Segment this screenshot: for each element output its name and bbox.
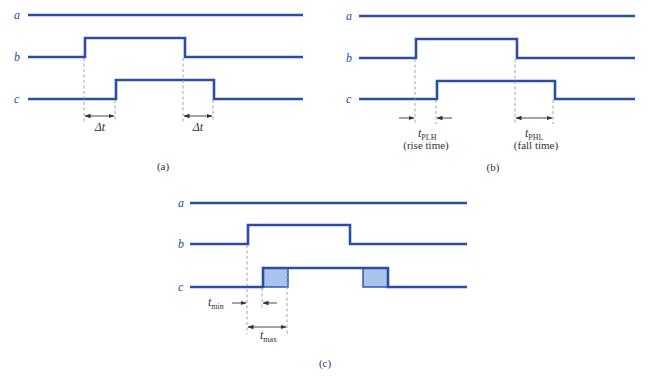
caption-c: (c)	[319, 357, 332, 370]
panel-c: a b c tmin tmax (c)	[178, 196, 467, 370]
delta-t-label-right: Δt	[192, 120, 204, 134]
signal-c-waveform	[28, 80, 303, 99]
signal-label-a: a	[346, 9, 352, 23]
uncertainty-region-fall	[363, 268, 388, 287]
caption-b: (b)	[487, 161, 500, 174]
delta-t-label-left: Δt	[94, 120, 106, 134]
t-max-label: tmax	[260, 328, 277, 344]
signal-label-a: a	[178, 196, 184, 210]
signal-label-b: b	[178, 237, 184, 251]
signal-label-c: c	[178, 280, 184, 294]
timing-diagram-figure: a b c Δt Δt (a) a b c tPLH (ris	[0, 0, 648, 376]
signal-label-a: a	[14, 8, 20, 22]
signal-label-c: c	[346, 92, 352, 106]
caption-a: (a)	[157, 160, 170, 173]
signal-b-waveform	[28, 38, 303, 57]
panel-b: a b c tPLH (rise time) tPHL (fall time) …	[346, 9, 635, 174]
signal-label-b: b	[14, 50, 20, 64]
fall-time-label: (fall time)	[514, 139, 559, 152]
signal-b-waveform	[190, 225, 467, 244]
signal-b-waveform	[359, 39, 635, 58]
signal-c-waveform	[190, 268, 467, 287]
uncertainty-region-rise	[263, 268, 288, 287]
panel-a: a b c Δt Δt (a)	[14, 8, 303, 173]
rise-time-label: (rise time)	[403, 139, 449, 152]
signal-label-b: b	[346, 51, 352, 65]
signal-label-c: c	[14, 92, 20, 106]
signal-c-waveform	[359, 81, 635, 99]
t-min-label: tmin	[208, 295, 224, 311]
